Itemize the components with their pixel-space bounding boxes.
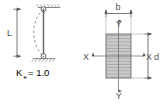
left-panel-column-diagram: L K e = 1.0 [7,4,60,79]
axis-y-top-label: Y [116,19,122,29]
axis-y-bottom-label: Y [116,91,122,101]
k-symbol: K [16,67,23,78]
effective-length-factor-label: K e = 1.0 [16,67,49,80]
axis-x-left-label: X [83,52,89,62]
length-dimension [13,9,21,56]
k-subscript: e [24,74,28,80]
depth-label: d [154,52,159,62]
engineering-figure: L K e = 1.0 b Y Y X X [0,0,164,110]
buckled-shape-curve [34,9,44,56]
length-label: L [7,28,12,38]
axis-x-right-label: X [146,52,152,62]
bottom-pin-support-icon [41,54,46,59]
top-support-hatching [37,4,61,7]
figure-canvas: L K e = 1.0 b Y Y X X [0,0,164,110]
k-value: = 1.0 [28,67,49,78]
width-label: b [116,2,121,12]
right-panel-section-diagram: b Y Y X X d [83,2,159,101]
